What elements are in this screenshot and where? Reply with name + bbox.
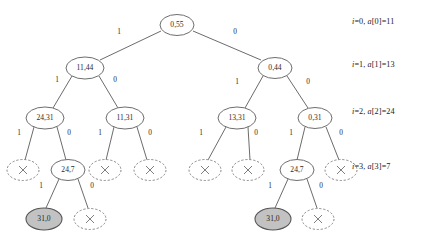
edge-label: 1 [199,128,203,137]
tree-edge [193,31,261,60]
row-array-value: [3]=7 [372,162,391,171]
edge-label: 0 [319,181,323,190]
edge-label: 1 [289,128,293,137]
tree-node-solution: 31,0 [26,208,62,230]
edge-label: 0 [90,181,94,190]
row-array-value: [2]=24 [372,107,395,116]
tree-node: 24,31 [26,107,64,129]
row-index-value: =3, [354,162,367,171]
tree-edge [307,179,317,208]
edge-label: 0 [148,128,152,137]
row-index-value: =1, [354,60,367,69]
node-label: 24,7 [290,165,303,174]
node-label: 31,0 [266,214,279,223]
tree-node-pruned [189,160,221,181]
edge-label: 0 [67,128,71,137]
row-index-value: =0, [354,17,367,26]
row-array-value: [0]=11 [372,17,395,26]
tree-node-pruned [134,160,166,181]
edge-label: 1 [17,128,21,137]
tree-node-pruned [74,209,106,230]
tree-node: 24,7 [51,160,85,181]
edge-label: 0 [254,128,258,137]
tree-node: 11,31 [106,107,144,129]
tree-node: 11,44 [66,57,104,79]
tree-edge [248,127,250,160]
edge-label: 1 [98,128,102,137]
tree-node-pruned [89,160,121,181]
node-label: 0,44 [268,63,281,72]
tree-edge [100,31,161,60]
tree-edge [275,179,288,208]
tree-edge [46,179,59,208]
tree-node-pruned [232,160,264,181]
tree-edge [245,76,263,108]
node-label: 24,7 [61,165,74,174]
decision-tree-graphic: 101010101010101010 0,5511,440,4424,3111,… [0,0,424,243]
tree-node: 24,7 [280,160,314,181]
tree-edge [297,127,305,160]
edge-label: 1 [235,77,239,86]
diagram-canvas: 101010101010101010 0,5511,440,4424,3111,… [0,0,424,243]
node-label: 31,0 [37,214,50,223]
edge-label: 1 [39,181,43,190]
node-label: 24,31 [36,113,53,122]
edges-group [25,31,339,208]
tree-node: 0,44 [258,58,292,79]
tree-edge [78,179,88,208]
nodes-group: 0,5511,440,4424,3111,3113,310,3124,724,7… [7,15,357,231]
edge-label: 0 [306,77,310,86]
edge-label: 0 [233,27,237,36]
tree-edge [57,127,66,160]
row-annotation: i=3, a[3]=7 [352,162,391,171]
tree-node-pruned [302,209,334,230]
tree-node-pruned [7,160,39,181]
tree-node: 13,31 [218,107,256,129]
edge-label: 1 [117,27,121,36]
row-annotation: i=2, a[2]=24 [352,107,395,116]
row-array-value: [1]=13 [372,60,395,69]
tree-edge [137,127,147,160]
node-label: 0,31 [308,113,321,122]
edge-label: 1 [55,75,59,84]
tree-node-solution: 31,0 [255,208,291,230]
edge-label: 0 [113,75,117,84]
tree-edge [208,127,226,160]
tree-node: 0,55 [160,15,194,36]
row-index-value: =2, [354,107,367,116]
tree-edge [326,127,339,160]
node-label: 11,31 [117,113,134,122]
node-label: 11,44 [77,63,94,72]
tree-node: 0,31 [298,108,332,129]
tree-edge [287,76,308,108]
row-annotation: i=1, a[1]=13 [352,60,395,69]
tree-edge [25,127,34,160]
tree-edge [106,127,114,160]
node-label: 0,55 [170,20,183,29]
edge-label: 1 [268,181,272,190]
edge-label: 0 [339,128,343,137]
node-label: 13,31 [228,113,245,122]
row-annotation: i=0, a[0]=11 [352,17,394,26]
